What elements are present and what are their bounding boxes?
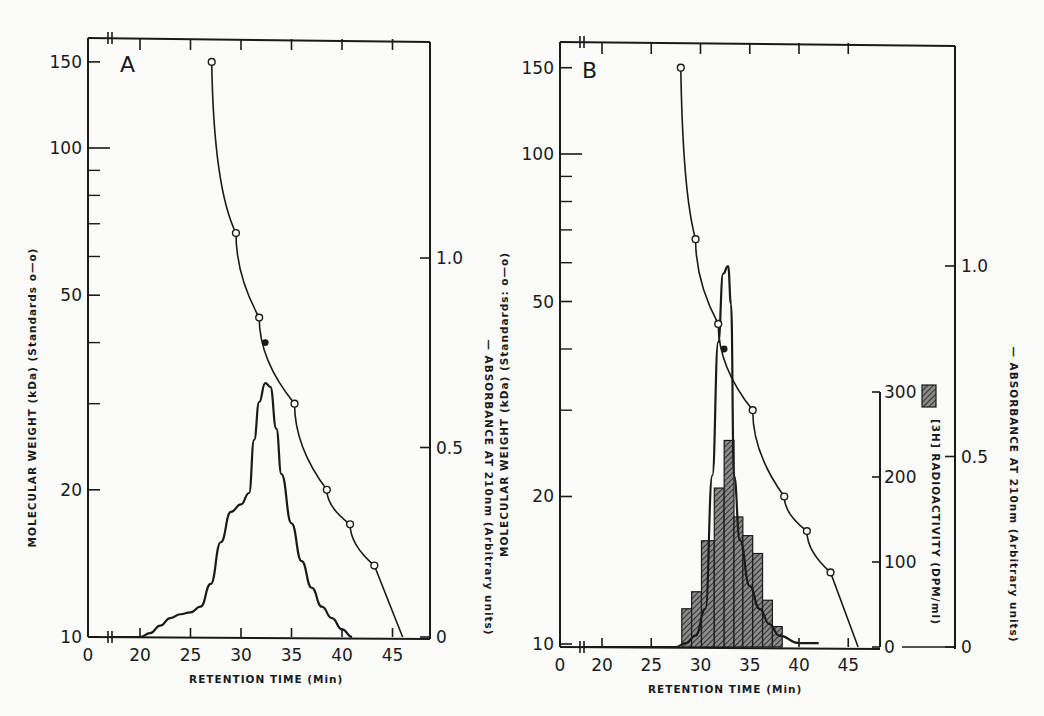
x-tick-label: 40 (788, 655, 810, 675)
y2-tick-label: 0.5 (436, 438, 463, 458)
top-frame (560, 42, 955, 46)
x-tick-label: 20 (591, 655, 613, 675)
y3-tick-label: 200 (884, 467, 916, 487)
standard-point (827, 569, 834, 576)
y-tick-label: 50 (60, 285, 82, 305)
histogram-bar (724, 440, 734, 647)
y-tick-label: 50 (532, 292, 554, 312)
x-tick-label: 0 (555, 655, 566, 675)
x-axis-title: RETENTION TIME (Min) (648, 683, 802, 695)
standard-point (677, 64, 684, 71)
x-tick-label: 45 (837, 655, 859, 675)
y-axis-title-left: MOLECULAR WEIGHT (kDa) (Standards: o—o) (498, 252, 510, 557)
y-tick-label: 10 (532, 634, 554, 654)
x-tick-label: 25 (640, 655, 662, 675)
standard-point (233, 230, 240, 237)
panel-label: A (120, 52, 135, 77)
y-tick-label: 20 (532, 486, 554, 506)
y2-tick-label: 0 (436, 627, 447, 647)
standard-point (291, 400, 298, 407)
standard-point (781, 493, 788, 500)
y3-tick-label: 100 (884, 552, 916, 572)
y3-tick-label: 300 (884, 382, 916, 402)
y2-tick-label: 1.0 (961, 256, 988, 276)
standard-point (715, 321, 722, 328)
y-axis-title-left: MOLECULAR WEIGHT (kDa) (Standards o—o) (26, 248, 38, 548)
standards-curve (212, 62, 403, 637)
y2-tick-label: 1.0 (436, 248, 463, 268)
y2-tick-label: 0 (961, 637, 972, 657)
x-tick-label: 40 (331, 645, 353, 665)
x-tick-label: 0 (83, 645, 94, 665)
x-tick-label: 30 (690, 655, 712, 675)
x-axis-title: RETENTION TIME (Min) (189, 673, 343, 685)
standard-point (749, 407, 756, 414)
standard-point (256, 314, 263, 321)
x-tick-label: 20 (129, 645, 151, 665)
x-tick-label: 25 (180, 645, 202, 665)
x-tick-label: 35 (281, 645, 303, 665)
x-tick-label: 45 (382, 645, 404, 665)
y3-tick-label: 0 (884, 637, 895, 657)
y-tick-label: 20 (60, 480, 82, 500)
standard-point (347, 521, 354, 528)
sample-point (721, 346, 728, 353)
y-tick-label: 100 (50, 138, 82, 158)
y-tick-label: 10 (60, 627, 82, 647)
standard-point (208, 58, 215, 65)
y-tick-label: 100 (522, 144, 554, 164)
y2-tick-label: 0.5 (961, 447, 988, 467)
absorbance-curve (110, 383, 352, 637)
hatch-legend-icon (922, 385, 936, 407)
y-axis-title-right: — ABSORBANCE AT 210nm (Arbitrary units) (1008, 346, 1020, 642)
y3-axis-title: [3H] RADIOACTIVITY (DPM/ml) (930, 419, 942, 625)
y-tick-label: 150 (522, 58, 554, 78)
histogram-bar (714, 488, 724, 647)
panel-b: 0202530354045RETENTION TIME (Min)1501005… (498, 36, 1020, 695)
panel-a: 0202530354045RETENTION TIME (Min)1501005… (26, 32, 495, 685)
standard-point (803, 528, 810, 535)
y-axis-title-right: — ABSORBANCE AT 210nm (Arbitrary units) (483, 339, 495, 635)
sample-point (262, 339, 269, 346)
panel-label: B (582, 58, 597, 83)
figure: 0202530354045RETENTION TIME (Min)1501005… (0, 0, 1044, 716)
x-tick-label: 35 (739, 655, 761, 675)
y-tick-label: 150 (50, 52, 82, 72)
x-tick-label: 30 (230, 645, 252, 665)
standard-point (692, 236, 699, 243)
standard-point (323, 486, 330, 493)
absorbance-curve (582, 266, 819, 647)
standard-point (371, 562, 378, 569)
